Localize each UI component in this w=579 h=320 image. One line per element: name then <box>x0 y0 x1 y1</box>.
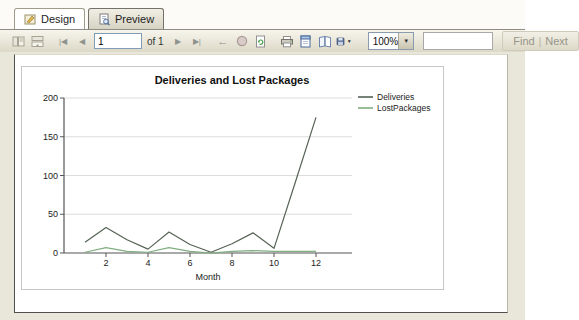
find-next-button[interactable]: Next <box>545 35 568 47</box>
previous-page-button[interactable]: ◀ <box>73 33 91 50</box>
zoom-dropdown-icon[interactable]: ▼ <box>398 33 413 49</box>
find-button[interactable]: Find <box>513 35 534 47</box>
stop-rendering-button[interactable] <box>233 33 251 50</box>
next-page-icon: ▶ <box>175 37 181 46</box>
y-tick-label: 200 <box>43 93 58 103</box>
back-arrow-icon: ← <box>217 35 228 47</box>
refresh-button[interactable] <box>252 33 270 50</box>
y-tick-label: 150 <box>43 132 58 142</box>
first-page-button[interactable]: |◀ <box>54 33 72 50</box>
x-tick-label: 10 <box>269 258 279 268</box>
y-tick-label: 50 <box>48 209 58 219</box>
back-to-parent-button[interactable]: ← <box>214 33 232 50</box>
print-button[interactable] <box>278 33 296 50</box>
parameters-icon[interactable] <box>28 33 46 50</box>
y-tick-label: 100 <box>43 171 58 181</box>
tab-design-label: Design <box>41 13 75 25</box>
find-next-separator: | <box>539 36 542 47</box>
design-icon <box>24 13 37 26</box>
page-number-input[interactable] <box>94 33 142 49</box>
x-tick-label: 12 <box>311 258 321 268</box>
tab-preview-label: Preview <box>115 13 154 25</box>
chart-panel: 05010015020024681012Deliveries and Lost … <box>21 66 444 290</box>
page-count-label: of 1 <box>147 36 164 47</box>
tab-design[interactable]: Design <box>14 8 85 29</box>
page-setup-icon <box>318 35 332 48</box>
report-page: 05010015020024681012Deliveries and Lost … <box>14 54 508 313</box>
legend-label-LostPackages: LostPackages <box>377 103 430 113</box>
export-icon <box>336 35 345 48</box>
document-map-icon[interactable] <box>9 33 27 50</box>
y-tick-label: 0 <box>53 248 58 258</box>
find-text-input[interactable] <box>423 32 493 50</box>
last-page-icon: ▶| <box>193 37 201 46</box>
stop-icon <box>236 35 248 47</box>
find-bar: Find | Next <box>502 31 579 51</box>
x-tick-label: 6 <box>187 258 192 268</box>
zoom-select[interactable]: 100% ▼ <box>368 32 415 50</box>
zoom-value: 100% <box>369 36 399 47</box>
preview-content-area: 05010015020024681012Deliveries and Lost … <box>0 52 525 320</box>
tab-preview[interactable]: Preview <box>88 8 164 29</box>
refresh-icon <box>254 35 267 48</box>
page-setup-button[interactable] <box>316 33 334 50</box>
preview-icon <box>98 13 111 26</box>
x-axis-title: Month <box>195 272 220 282</box>
previous-page-icon: ◀ <box>79 37 85 46</box>
next-page-button[interactable]: ▶ <box>169 33 187 50</box>
print-icon <box>280 35 294 48</box>
export-dropdown-icon: ▼ <box>347 38 352 44</box>
print-layout-icon <box>299 35 312 48</box>
x-tick-label: 8 <box>229 258 234 268</box>
legend-label-Deliveries: Deliveries <box>377 92 414 102</box>
last-page-button[interactable]: ▶| <box>188 33 206 50</box>
print-layout-button[interactable] <box>297 33 315 50</box>
chart-title: Deliveries and Lost Packages <box>155 74 310 86</box>
series-line-Deliveries <box>85 117 316 252</box>
x-tick-label: 2 <box>103 258 108 268</box>
preview-toolbar: |◀ ◀ of 1 ▶ ▶| ← <box>0 29 525 53</box>
tab-strip: Design Preview <box>0 0 525 29</box>
export-button[interactable]: ▼ <box>335 33 353 50</box>
chart-svg: 05010015020024681012Deliveries and Lost … <box>22 67 443 289</box>
x-tick-label: 4 <box>145 258 150 268</box>
first-page-icon: |◀ <box>59 37 67 46</box>
